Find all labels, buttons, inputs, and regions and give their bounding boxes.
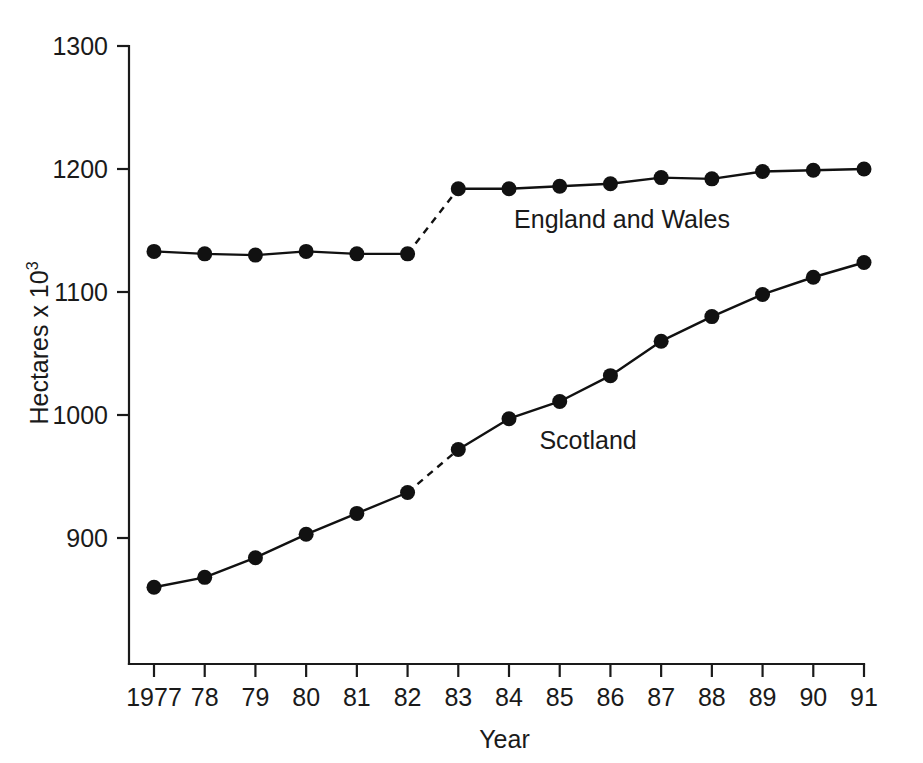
- data-point-marker: [806, 270, 821, 285]
- data-point-marker: [502, 411, 517, 426]
- x-axis-tick-label: 85: [546, 683, 574, 711]
- x-axis-tick-label: 78: [191, 683, 219, 711]
- data-point-marker: [400, 246, 415, 261]
- series-line-break-dashed: [408, 449, 459, 492]
- y-axis-tick-label: 1100: [54, 278, 108, 306]
- y-axis: 9001000110012001300: [52, 32, 129, 664]
- data-point-marker: [755, 164, 770, 179]
- x-axis-tick-label: 87: [647, 683, 675, 711]
- x-axis-tick-label: 89: [749, 683, 777, 711]
- x-axis: 19777879808182838485868788899091: [126, 664, 878, 711]
- series-line-break-dashed: [408, 189, 459, 254]
- data-point-marker: [248, 550, 263, 565]
- data-point-marker: [755, 287, 770, 302]
- data-point-marker: [299, 527, 314, 542]
- data-point-marker: [197, 246, 212, 261]
- data-point-marker: [349, 506, 364, 521]
- data-point-marker: [704, 309, 719, 324]
- data-point-marker: [704, 171, 719, 186]
- x-axis-tick-label: 83: [444, 683, 472, 711]
- data-point-marker: [147, 244, 162, 259]
- data-point-marker: [654, 170, 669, 185]
- data-point-marker: [552, 394, 567, 409]
- data-point-marker: [451, 442, 466, 457]
- data-point-marker: [147, 580, 162, 595]
- x-axis-tick-label: 91: [850, 683, 878, 711]
- chart-figure: 9001000110012001300 19777879808182838485…: [0, 0, 923, 763]
- data-point-marker: [857, 162, 872, 177]
- series-line-segment: [154, 251, 408, 255]
- x-axis-tick-label: 86: [597, 683, 625, 711]
- x-axis-tick-label: 81: [343, 683, 371, 711]
- series-scotland: Scotland: [147, 255, 872, 595]
- data-point-marker: [502, 181, 517, 196]
- data-point-marker: [349, 246, 364, 261]
- series-line-segment: [154, 492, 408, 587]
- data-point-marker: [400, 485, 415, 500]
- data-point-marker: [248, 248, 263, 263]
- data-point-marker: [197, 570, 212, 585]
- axis-titles: YearHectares x 103: [24, 261, 530, 753]
- series-label-england-and-wales: England and Wales: [514, 205, 730, 233]
- y-axis-tick-label: 1300: [52, 32, 108, 60]
- y-axis-tick-label: 1200: [52, 155, 108, 183]
- data-point-marker: [603, 368, 618, 383]
- x-axis-tick-label: 84: [495, 683, 523, 711]
- data-point-marker: [654, 334, 669, 349]
- series-label-scotland: Scotland: [539, 426, 636, 454]
- x-axis-title: Year: [479, 725, 530, 753]
- data-point-marker: [451, 181, 466, 196]
- x-axis-tick-label: 88: [698, 683, 726, 711]
- x-axis-tick-label: 80: [292, 683, 320, 711]
- y-axis-tick-label: 900: [66, 524, 108, 552]
- series-line-segment: [458, 262, 864, 449]
- series-england-and-wales: England and Wales: [147, 162, 872, 263]
- y-axis-tick-label: 1000: [52, 401, 108, 429]
- data-series-group: England and WalesScotland: [147, 162, 872, 595]
- data-point-marker: [552, 179, 567, 194]
- data-point-marker: [299, 244, 314, 259]
- data-point-marker: [603, 176, 618, 191]
- line-chart: 9001000110012001300 19777879808182838485…: [0, 0, 923, 763]
- x-axis-tick-label: 82: [394, 683, 422, 711]
- data-point-marker: [857, 255, 872, 270]
- x-axis-tick-label: 90: [799, 683, 827, 711]
- data-point-marker: [806, 163, 821, 178]
- x-axis-tick-label: 1977: [126, 683, 182, 711]
- y-axis-title: Hectares x 103: [24, 261, 53, 424]
- x-axis-tick-label: 79: [242, 683, 270, 711]
